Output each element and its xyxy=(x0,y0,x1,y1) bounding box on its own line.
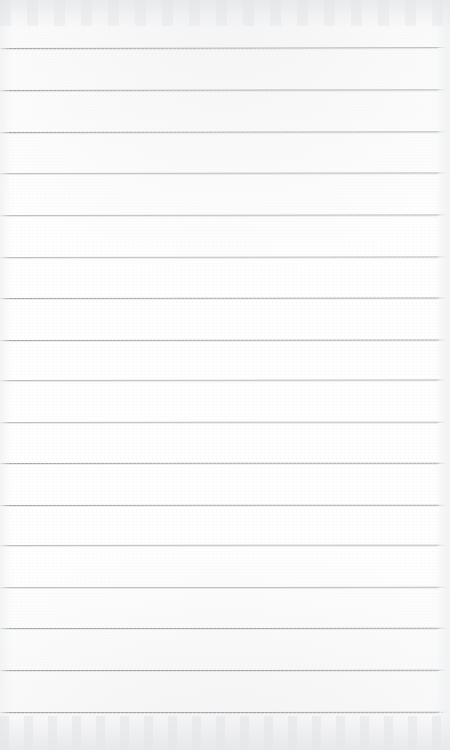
writing-area[interactable] xyxy=(0,0,450,750)
scanned-lined-paper-page xyxy=(0,0,450,750)
